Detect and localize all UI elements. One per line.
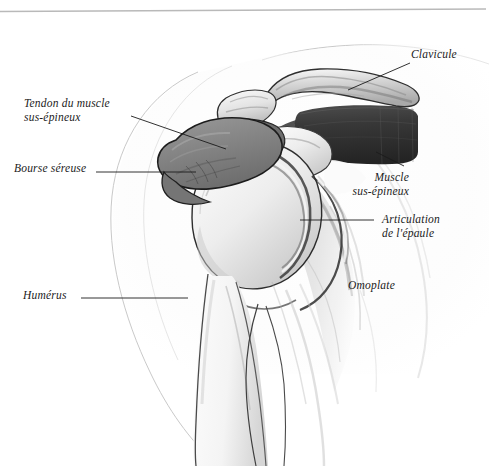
top-rule (0, 9, 486, 12)
label-humerus-line1: Humérus (23, 288, 67, 302)
label-tendon-du-muscle-sus-epineux: Tendon du muscle sus-épineux (24, 96, 110, 124)
label-tendon-line2: sus-épineux (24, 110, 110, 124)
label-clavicule: Clavicule (411, 47, 457, 61)
label-bourse-line1: Bourse séreuse (14, 161, 86, 175)
label-muscle-line2: sus-épineux (309, 184, 409, 198)
shoulder-anatomy-figure: Tendon du muscle sus-épineux Bourse sére… (0, 0, 489, 468)
label-clavicule-line1: Clavicule (411, 47, 457, 61)
label-muscle-line1: Muscle (309, 170, 409, 184)
label-humerus: Humérus (23, 288, 67, 302)
label-omoplate: Omoplate (348, 278, 395, 292)
label-articulation-de-l-epaule: Articulation de l'épaule (382, 212, 440, 240)
label-articulation-line1: Articulation (382, 212, 440, 226)
label-omoplate-line1: Omoplate (348, 278, 395, 292)
label-bourse-sereuse: Bourse séreuse (14, 161, 86, 175)
label-tendon-line1: Tendon du muscle (24, 96, 110, 110)
label-articulation-line2: de l'épaule (382, 226, 440, 240)
label-muscle-sus-epineux: Muscle sus-épineux (309, 170, 409, 198)
